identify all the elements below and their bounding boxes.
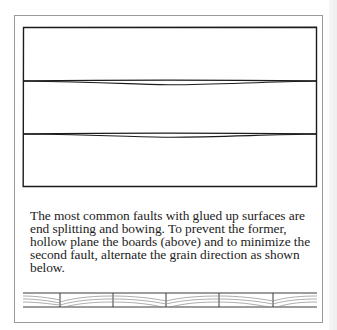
- glue-joint-2-lower: [24, 134, 317, 137]
- alternating-grain-illustration: [22, 290, 318, 310]
- glue-joint-1-upper: [24, 80, 317, 81]
- glued-boards-drawing: [22, 26, 318, 188]
- glued-boards-illustration: [22, 26, 318, 188]
- grain-direction-drawing: [22, 290, 318, 310]
- boards-outline: [23, 27, 316, 186]
- page-edge-strip: [329, 0, 337, 330]
- glue-joint-1-lower: [24, 81, 317, 85]
- caption-line: below.: [30, 261, 320, 274]
- caption-text: The most common faults with glued up sur…: [30, 209, 320, 274]
- caption-line: second fault, alternate the grain direct…: [30, 248, 320, 261]
- glue-joint-2-upper: [24, 133, 317, 134]
